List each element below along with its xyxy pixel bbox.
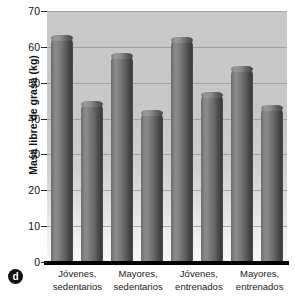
bar-cap [51, 35, 73, 41]
bar [51, 36, 73, 262]
y-tick-mark [41, 154, 47, 155]
y-tick-label: 0 [18, 257, 40, 267]
figure-panel: Masa libre de grasa (kg) 010203040506070… [0, 0, 295, 296]
category-label-line: entrenados [169, 280, 230, 293]
y-tick-label: 60 [18, 42, 40, 52]
category-label-line: Mayores, [108, 267, 169, 280]
y-tick-label: 40 [18, 114, 40, 124]
bar [141, 111, 163, 262]
y-tick-label: 30 [18, 149, 40, 159]
bar [171, 38, 193, 262]
y-tick-mark [41, 226, 47, 227]
gridline [47, 11, 287, 12]
x-axis-category-labels: Jóvenes,sedentariosMayores,sedentariosJó… [47, 267, 290, 296]
y-axis-tick-labels: 010203040506070 [18, 0, 40, 268]
category-label-line: Jóvenes, [169, 267, 230, 280]
category-label-line: Mayores, [229, 267, 290, 280]
y-tick-mark [41, 47, 47, 48]
category-label-line: entrenados [229, 280, 290, 293]
y-tick-label: 50 [18, 78, 40, 88]
panel-letter-badge: d [8, 269, 23, 284]
bar [201, 93, 223, 262]
y-tick-mark [41, 83, 47, 84]
y-tick-label: 70 [18, 6, 40, 16]
bar-cap [231, 66, 253, 72]
category-label: Mayores,sedentarios [108, 267, 169, 296]
bar-cap [201, 92, 223, 98]
y-tick-label: 10 [18, 221, 40, 231]
y-tick-label: 20 [18, 185, 40, 195]
bar [81, 102, 103, 262]
bar [111, 54, 133, 262]
y-tick-mark [41, 262, 47, 263]
bar-cap [141, 110, 163, 116]
y-tick-mark [41, 119, 47, 120]
category-label-line: sedentarios [47, 280, 108, 293]
category-label-line: sedentarios [108, 280, 169, 293]
bar [261, 106, 283, 262]
bar-cap [261, 105, 283, 111]
bar-cap [111, 53, 133, 59]
gridline [47, 47, 287, 48]
bar [231, 67, 253, 262]
bar-cap [81, 101, 103, 107]
category-label-line: Jóvenes, [47, 267, 108, 280]
plot-area [47, 11, 287, 262]
y-tick-mark [41, 190, 47, 191]
category-label: Mayores,entrenados [229, 267, 290, 296]
x-axis-line [44, 261, 289, 265]
category-label: Jóvenes,entrenados [169, 267, 230, 296]
bar-cap [171, 37, 193, 43]
y-tick-mark [41, 11, 47, 12]
category-label: Jóvenes,sedentarios [47, 267, 108, 296]
